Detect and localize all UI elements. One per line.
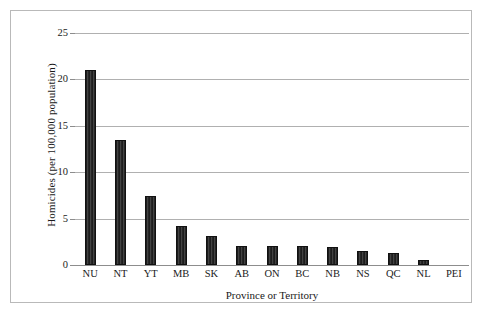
bar	[115, 140, 126, 265]
x-axis-title: Province or Territory	[75, 289, 469, 301]
bar	[327, 247, 338, 265]
y-axis-title: Homicides (per 100,000 population)	[45, 30, 57, 260]
plot-area: 0510152025	[75, 33, 469, 265]
bar	[85, 70, 96, 265]
y-tick-label: 10	[58, 167, 69, 178]
bar-slot	[318, 33, 348, 265]
x-tick-label: NL	[408, 269, 438, 280]
bar-slot	[105, 33, 135, 265]
x-tick-label: QC	[378, 269, 408, 280]
y-tick-label: 0	[63, 260, 68, 271]
bar	[267, 246, 278, 265]
x-tick-label: YT	[136, 269, 166, 280]
x-tick-label: AB	[227, 269, 257, 280]
chart-figure: Homicides (per 100,000 population) 05101…	[0, 0, 484, 312]
y-tick-label: 15	[58, 121, 69, 132]
bar-slot	[196, 33, 226, 265]
gridline	[75, 265, 469, 266]
bar	[236, 246, 247, 265]
bar-slot	[227, 33, 257, 265]
bar	[388, 253, 399, 265]
bar-slot	[348, 33, 378, 265]
x-tick-label: NT	[105, 269, 135, 280]
bar	[418, 260, 429, 265]
x-tick-label: NB	[318, 269, 348, 280]
bar-slot	[408, 33, 438, 265]
y-tick-mark	[70, 265, 75, 266]
bar	[145, 196, 156, 265]
x-tick-label: PEI	[439, 269, 469, 280]
x-axis-tick-labels: NUNTYTMBSKABONBCNBNSQCNLPEI	[75, 269, 469, 280]
bar	[176, 226, 187, 265]
bar-slot	[136, 33, 166, 265]
x-tick-label: SK	[196, 269, 226, 280]
bar-slot	[287, 33, 317, 265]
y-tick-label: 20	[58, 74, 69, 85]
chart-border-frame: Homicides (per 100,000 population) 05101…	[10, 10, 472, 303]
bar-slot	[257, 33, 287, 265]
bar-slot	[166, 33, 196, 265]
x-tick-label: NU	[75, 269, 105, 280]
x-tick-label: ON	[257, 269, 287, 280]
y-tick-label: 5	[63, 213, 68, 224]
bar	[206, 236, 217, 265]
x-tick-label: NS	[348, 269, 378, 280]
y-tick-label: 25	[58, 28, 69, 39]
bar	[357, 251, 368, 265]
bar-slot	[378, 33, 408, 265]
bar	[297, 246, 308, 265]
bars-series	[75, 33, 469, 265]
x-tick-label: BC	[287, 269, 317, 280]
bar-slot	[439, 33, 469, 265]
bar-slot	[75, 33, 105, 265]
x-tick-label: MB	[166, 269, 196, 280]
